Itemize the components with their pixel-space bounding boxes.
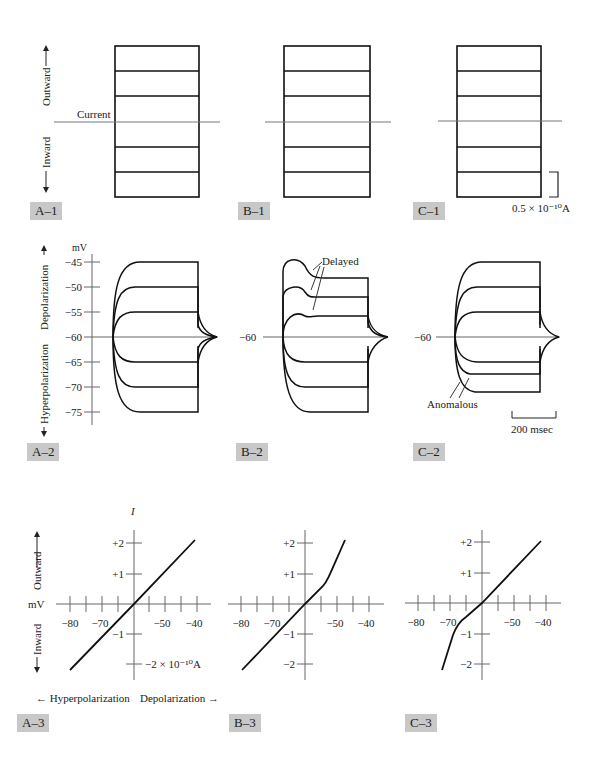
svg-text:−1: −1 bbox=[460, 628, 472, 640]
svg-text:+2: +2 bbox=[460, 536, 472, 548]
depolarization-direction-label: Depolarization → bbox=[140, 692, 219, 704]
panel-tag-c3: C–3 bbox=[405, 714, 437, 732]
current-unit-label: −2 × 10⁻¹⁰A bbox=[145, 658, 201, 670]
a2-y-tick-labels: −45 −50 −55 −60 −65 −70 −75 bbox=[65, 256, 83, 418]
svg-text:Inward: Inward bbox=[40, 136, 52, 168]
svg-text:Hyperpolarization: Hyperpolarization bbox=[38, 343, 50, 424]
svg-text:+1: +1 bbox=[283, 568, 295, 580]
svg-text:−1: −1 bbox=[112, 628, 124, 640]
hyperpolarization-direction-label: ← Hyperpolarization bbox=[36, 692, 130, 704]
panel-tag-c2: C–2 bbox=[413, 443, 445, 461]
figure-canvas: 0.5 × 10⁻¹⁰A Current Outward Inward mV −… bbox=[0, 0, 597, 757]
row3-inward-label: Inward bbox=[31, 623, 43, 670]
panel-tag-b3: B–3 bbox=[229, 714, 261, 732]
svg-text:−1: −1 bbox=[283, 628, 295, 640]
c2-voltage-traces bbox=[455, 262, 559, 392]
panel-tag-c1: C–1 bbox=[413, 202, 445, 220]
svg-text:−70: −70 bbox=[65, 381, 83, 393]
depolarization-axis-label: Depolarization bbox=[38, 248, 50, 330]
svg-text:−70: −70 bbox=[263, 617, 281, 629]
panel-tag-a2: A–2 bbox=[27, 443, 59, 461]
svg-text:+1: +1 bbox=[460, 567, 472, 579]
svg-text:−80: −80 bbox=[232, 617, 250, 629]
c2-resting-label: −60 bbox=[414, 331, 432, 343]
b3-axes bbox=[228, 530, 384, 680]
svg-text:−2: −2 bbox=[460, 658, 472, 670]
a3-x-tick-labels: −80 −70 −50 −40 bbox=[61, 617, 203, 629]
inward-axis-label: Inward bbox=[40, 136, 52, 190]
svg-text:−70: −70 bbox=[91, 617, 109, 629]
delayed-annotation: Delayed bbox=[311, 255, 359, 310]
c3-iv-curve bbox=[442, 541, 541, 670]
svg-text:−80: −80 bbox=[407, 616, 425, 628]
svg-text:−50: −50 bbox=[326, 617, 344, 629]
svg-text:−75: −75 bbox=[65, 406, 83, 418]
voltage-axis-label: mV bbox=[28, 598, 45, 610]
svg-text:−2: −2 bbox=[283, 658, 295, 670]
svg-text:Anomalous: Anomalous bbox=[427, 398, 478, 410]
svg-text:−50: −50 bbox=[503, 616, 521, 628]
c3-x-tick-labels: −80 −70 −50 −40 bbox=[407, 616, 552, 628]
outward-axis-label: Outward bbox=[40, 48, 52, 106]
svg-text:Inward: Inward bbox=[31, 623, 43, 655]
panel-tag-b2: B–2 bbox=[236, 443, 268, 461]
svg-text:−40: −40 bbox=[357, 617, 375, 629]
c3-axes bbox=[405, 530, 561, 680]
time-scale-label: 200 msec bbox=[511, 423, 553, 435]
svg-text:−40: −40 bbox=[534, 616, 552, 628]
svg-text:Outward: Outward bbox=[31, 551, 43, 590]
svg-text:−50: −50 bbox=[65, 281, 83, 293]
current-label: Current bbox=[77, 108, 111, 120]
svg-text:Delayed: Delayed bbox=[322, 255, 359, 267]
current-axis-label: I bbox=[130, 505, 136, 517]
svg-text:+2: +2 bbox=[283, 537, 295, 549]
svg-text:−65: −65 bbox=[65, 356, 83, 368]
anomalous-annotation: Anomalous bbox=[427, 378, 478, 410]
svg-text:+1: +1 bbox=[112, 568, 124, 580]
current-scale-label: 0.5 × 10⁻¹⁰A bbox=[512, 202, 570, 214]
svg-text:Outward: Outward bbox=[40, 67, 52, 106]
svg-text:Depolarization: Depolarization bbox=[38, 264, 50, 330]
svg-text:−55: −55 bbox=[65, 306, 83, 318]
b2-voltage-traces bbox=[283, 260, 388, 412]
hyperpolarization-axis-label: Hyperpolarization bbox=[38, 343, 50, 434]
time-scale-bar bbox=[512, 411, 556, 418]
a3-iv-curve bbox=[70, 540, 195, 670]
panel-tag-b1: B–1 bbox=[238, 202, 270, 220]
svg-text:−40: −40 bbox=[185, 617, 203, 629]
svg-text:−70: −70 bbox=[439, 616, 457, 628]
panel-tag-a1: A–1 bbox=[30, 202, 62, 220]
row3-outward-label: Outward bbox=[31, 534, 43, 590]
svg-text:+2: +2 bbox=[112, 537, 124, 549]
current-scale-bar bbox=[549, 172, 558, 197]
b2-resting-label: −60 bbox=[239, 331, 257, 343]
svg-text:−45: −45 bbox=[65, 256, 83, 268]
b3-x-tick-labels: −80 −70 −50 −40 bbox=[232, 617, 375, 629]
svg-text:−80: −80 bbox=[61, 617, 79, 629]
mv-unit-label: mV bbox=[72, 242, 88, 253]
svg-text:−60: −60 bbox=[65, 331, 83, 343]
panel-tag-a3: A–3 bbox=[17, 714, 49, 732]
svg-text:−50: −50 bbox=[153, 617, 171, 629]
